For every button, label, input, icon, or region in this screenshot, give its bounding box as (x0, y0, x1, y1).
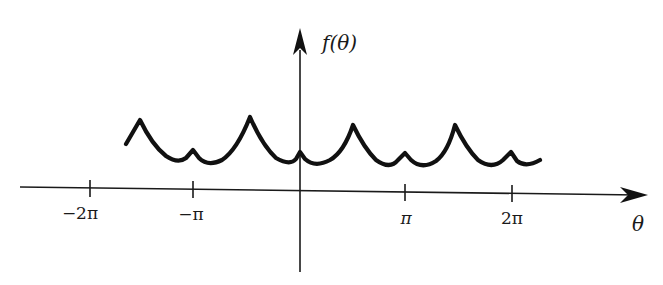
function-curve (126, 117, 540, 165)
tick-label-pi: π (399, 208, 412, 228)
x-axis-label: θ (632, 212, 644, 236)
function-plot: −2π −π π 2π f(θ) θ (0, 0, 663, 285)
x-axis (20, 187, 648, 203)
tick-label-neg-pi: −π (178, 204, 203, 224)
tick-label-neg-2pi: −2π (62, 203, 98, 223)
y-axis-label: f(θ) (320, 31, 357, 55)
tick-label-2pi: 2π (501, 208, 523, 228)
